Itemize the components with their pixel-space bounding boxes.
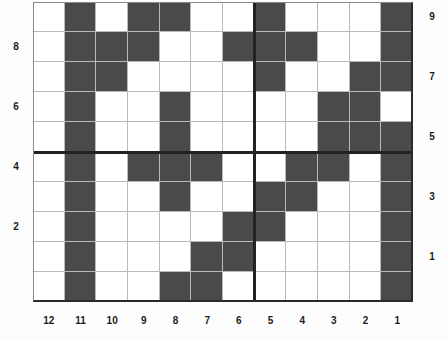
y-axis-right-tick-label: 9: [424, 11, 440, 22]
heatmap-cell: [160, 242, 192, 272]
heatmap-cell: [286, 152, 318, 182]
heatmap-cell: [318, 32, 350, 62]
heatmap-cell: [223, 2, 255, 32]
heatmap-cell: [350, 92, 382, 122]
heatmap-cell: [350, 122, 382, 152]
heatmap-cell: [381, 122, 413, 152]
heatmap-cell: [65, 92, 97, 122]
heatmap-cell: [223, 92, 255, 122]
heatmap-cell: [160, 62, 192, 92]
heatmap-cell: [350, 242, 382, 272]
heatmap-cell: [381, 152, 413, 182]
heatmap-cell: [286, 92, 318, 122]
heatmap-cell: [191, 272, 223, 302]
heatmap-cell: [223, 122, 255, 152]
chart-root: 864297531121110987654321: [0, 0, 448, 341]
heatmap-cell: [255, 62, 287, 92]
heatmap-cell: [65, 32, 97, 62]
heatmap-cell: [191, 2, 223, 32]
heatmap-cell: [350, 32, 382, 62]
y-axis-left-tick-label: 4: [8, 161, 24, 172]
heatmap-cell: [191, 242, 223, 272]
x-axis-tick-label: 8: [161, 315, 191, 326]
heatmap-cell: [160, 32, 192, 62]
heatmap-cell: [350, 272, 382, 302]
heatmap-cell: [286, 62, 318, 92]
heatmap-cell: [191, 32, 223, 62]
x-axis-tick-label: 9: [129, 315, 159, 326]
heatmap-cell: [255, 2, 287, 32]
heatmap-cell: [255, 122, 287, 152]
heatmap-cell: [33, 2, 65, 32]
heatmap-cell: [128, 152, 160, 182]
heatmap-cell: [350, 62, 382, 92]
heatmap-cell: [286, 242, 318, 272]
y-axis-right-tick-label: 7: [424, 71, 440, 82]
heatmap-cell: [160, 2, 192, 32]
heatmap-cell: [96, 122, 128, 152]
x-axis-tick-label: 12: [34, 315, 64, 326]
y-axis-left-tick-label: 8: [8, 41, 24, 52]
heatmap-cell: [286, 182, 318, 212]
heatmap-cell: [160, 92, 192, 122]
heatmap-cell: [96, 92, 128, 122]
heatmap-cell: [128, 242, 160, 272]
heatmap-cell: [318, 92, 350, 122]
heatmap-cell: [191, 92, 223, 122]
heatmap-cell: [381, 2, 413, 32]
x-axis-tick-label: 7: [192, 315, 222, 326]
heatmap-cell: [65, 122, 97, 152]
heatmap-cell: [128, 182, 160, 212]
heatmap-cell: [318, 152, 350, 182]
heatmap-cell: [96, 152, 128, 182]
y-axis-left-tick-label: 6: [8, 101, 24, 112]
heatmap-cell: [191, 212, 223, 242]
heatmap-cell: [128, 122, 160, 152]
heatmap-cell: [128, 62, 160, 92]
y-axis-right-tick-label: 1: [424, 251, 440, 262]
x-axis-tick-label: 11: [66, 315, 96, 326]
heatmap-cell: [65, 242, 97, 272]
heatmap-cell: [318, 62, 350, 92]
heatmap-cell: [255, 92, 287, 122]
heatmap-cell: [160, 182, 192, 212]
heatmap-cell: [160, 152, 192, 182]
heatmap-cell: [381, 242, 413, 272]
heatmap-cell: [350, 182, 382, 212]
heatmap-cell: [286, 212, 318, 242]
heatmap-cell: [96, 2, 128, 32]
heatmap-cell: [128, 2, 160, 32]
heatmap-cell: [33, 92, 65, 122]
heatmap-cell: [223, 212, 255, 242]
heatmap-cell: [33, 242, 65, 272]
heatmap-cell: [96, 212, 128, 242]
y-axis-right-tick-label: 5: [424, 131, 440, 142]
heatmap-cell: [96, 182, 128, 212]
heatmap-cell: [286, 2, 318, 32]
heatmap-cell-grid: [33, 2, 413, 302]
heatmap-cell: [65, 152, 97, 182]
heatmap-cell: [65, 62, 97, 92]
heatmap-cell: [318, 2, 350, 32]
heatmap-cell: [191, 182, 223, 212]
heatmap-cell: [128, 272, 160, 302]
heatmap-cell: [223, 272, 255, 302]
heatmap-cell: [33, 152, 65, 182]
heatmap-cell: [318, 122, 350, 152]
heatmap-cell: [65, 182, 97, 212]
heatmap-cell: [381, 92, 413, 122]
heatmap-cell: [160, 212, 192, 242]
heatmap-cell: [65, 212, 97, 242]
heatmap-cell: [96, 242, 128, 272]
heatmap-cell: [96, 272, 128, 302]
y-axis-left-tick-label: 2: [8, 221, 24, 232]
heatmap-cell: [191, 62, 223, 92]
heatmap-cell: [381, 32, 413, 62]
heatmap-cell: [286, 272, 318, 302]
heatmap-cell: [160, 122, 192, 152]
heatmap-cell: [223, 242, 255, 272]
heatmap-cell: [255, 212, 287, 242]
heatmap-cell: [128, 212, 160, 242]
x-axis-tick-label: 10: [97, 315, 127, 326]
heatmap-cell: [223, 32, 255, 62]
